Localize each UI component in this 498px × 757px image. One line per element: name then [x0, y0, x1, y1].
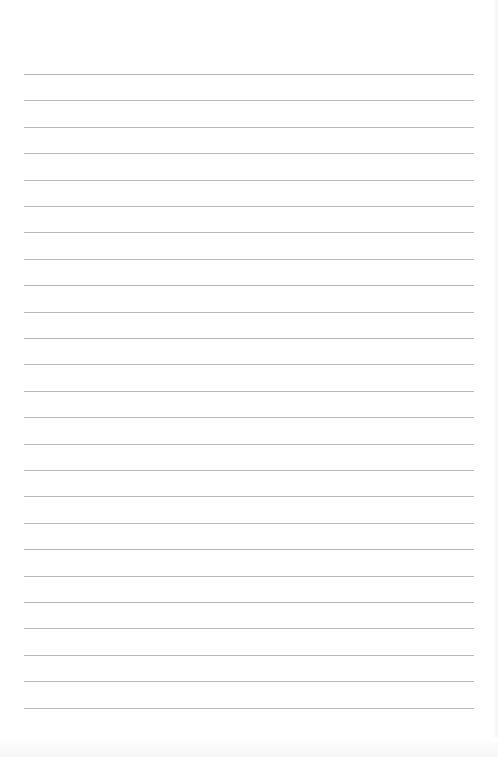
ruled-line: [24, 708, 474, 709]
ruled-line: [24, 259, 474, 260]
ruled-line: [24, 628, 474, 629]
ruled-line: [24, 549, 474, 550]
ruled-line: [24, 391, 474, 392]
ruled-line: [24, 655, 474, 656]
ruled-line: [24, 338, 474, 339]
ruled-line: [24, 364, 474, 365]
ruled-line: [24, 576, 474, 577]
ruled-line: [24, 602, 474, 603]
page-bottom-edge-shadow: [0, 737, 498, 757]
lined-paper-page: [0, 0, 498, 757]
ruled-line: [24, 496, 474, 497]
page-right-edge-shadow: [493, 0, 498, 757]
ruled-line: [24, 74, 474, 75]
ruled-line: [24, 470, 474, 471]
ruled-line: [24, 312, 474, 313]
ruled-line: [24, 444, 474, 445]
ruled-line: [24, 523, 474, 524]
ruled-line: [24, 153, 474, 154]
ruled-line: [24, 681, 474, 682]
ruled-line: [24, 285, 474, 286]
ruled-line: [24, 232, 474, 233]
ruled-line: [24, 417, 474, 418]
ruled-line: [24, 180, 474, 181]
ruled-line: [24, 127, 474, 128]
ruled-line: [24, 206, 474, 207]
ruled-line: [24, 100, 474, 101]
